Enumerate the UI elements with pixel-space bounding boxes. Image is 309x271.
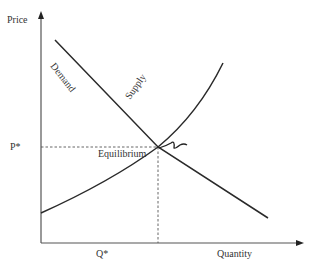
- equilibrium-label: Equilibrium: [98, 148, 147, 159]
- x-axis: [41, 240, 304, 246]
- supply-label: Supply: [123, 72, 148, 102]
- x-axis-arrow-icon: [296, 240, 304, 246]
- y-axis-arrow-icon: [38, 11, 44, 19]
- x-axis-label: Quantity: [217, 248, 252, 259]
- y-axis-label: Price: [7, 14, 28, 25]
- demand-label: Demand: [48, 60, 78, 93]
- quantity-equilibrium-label: Q*: [96, 248, 108, 259]
- supply-demand-diagram: Price Quantity P* Q* Equilibrium Demand …: [0, 0, 309, 271]
- price-equilibrium-label: P*: [10, 141, 21, 152]
- y-axis: [38, 11, 44, 243]
